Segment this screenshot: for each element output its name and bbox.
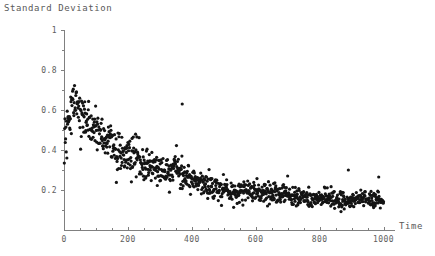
data-point [65,150,68,153]
data-point [359,188,362,191]
data-point [123,164,126,167]
data-point [352,194,355,197]
data-point [218,189,221,192]
data-point [210,177,213,180]
data-point [150,179,153,182]
data-point [91,136,94,139]
data-point [150,151,153,154]
data-point [127,149,130,152]
data-point [96,148,99,151]
data-point [122,153,125,156]
x-tick-label: 1000 [373,235,394,244]
data-point [175,144,178,147]
data-point [121,161,124,164]
data-point [117,135,120,138]
data-point [135,175,138,178]
data-point [115,181,118,184]
data-point [77,104,80,107]
data-point [242,180,245,183]
data-point [207,185,210,188]
data-point [188,185,191,188]
data-point [214,187,217,190]
data-point [207,168,210,171]
data-point [241,203,244,206]
data-point [129,156,132,159]
data-point [93,118,96,121]
data-point [99,128,102,131]
data-point [189,193,192,196]
data-point [74,94,77,97]
data-point [374,193,377,196]
data-point [145,148,148,151]
data-point [256,191,259,194]
data-point [166,158,169,161]
data-point [118,132,121,135]
data-point [78,97,81,100]
data-point [210,185,213,188]
data-point [217,199,220,202]
data-point [85,112,88,115]
data-point [246,196,249,199]
data-point [331,195,334,198]
data-point [72,114,75,117]
data-point [109,129,112,132]
data-point [233,184,236,187]
data-point [75,90,78,93]
data-point [139,158,142,161]
y-tick-label: 0.8 [41,66,57,75]
data-point [78,126,81,129]
data-point [96,117,99,120]
data-point-outlier [181,102,184,105]
data-point-outlier [173,162,176,165]
data-point [94,105,97,108]
data-point [264,183,267,186]
data-point [288,188,291,191]
data-point [161,157,164,160]
data-point [115,160,118,163]
data-point [225,178,228,181]
data-point [337,197,340,200]
data-point [283,198,286,201]
data-point [355,191,358,194]
data-point [292,203,295,206]
data-point [126,166,129,169]
data-point [138,155,141,158]
data-point [273,181,276,184]
data-point [244,198,247,201]
data-point [196,188,199,191]
data-point [132,135,135,138]
data-point [100,135,103,138]
data-point [63,162,66,165]
x-tick-label: 800 [312,235,328,244]
data-point [87,108,90,111]
data-point [248,182,251,185]
data-point [193,172,196,175]
data-point [78,119,81,122]
data-point [255,177,258,180]
x-tick-label: 200 [120,235,136,244]
data-point [70,132,73,135]
data-point-outlier [377,175,380,178]
data-point [155,156,158,159]
data-point [352,205,355,208]
data-point [113,133,116,136]
data-point [73,84,76,87]
y-tick-label: 0.2 [41,186,57,195]
data-point [83,108,86,111]
data-point [362,204,365,207]
data-point [160,161,163,164]
scatter-plot-figure: Standard Deviation Time 0.20.40.60.81 02… [0,0,435,256]
data-point [339,210,342,213]
data-point [206,197,209,200]
x-tick-label: 0 [61,235,66,244]
data-point [87,100,90,103]
data-point [159,179,162,182]
data-point [151,172,154,175]
data-point [343,207,346,210]
y-tick-label: 1 [52,26,57,35]
data-point [294,186,297,189]
data-point [112,143,115,146]
data-point [137,136,140,139]
data-point [363,194,366,197]
data-point [199,172,202,175]
